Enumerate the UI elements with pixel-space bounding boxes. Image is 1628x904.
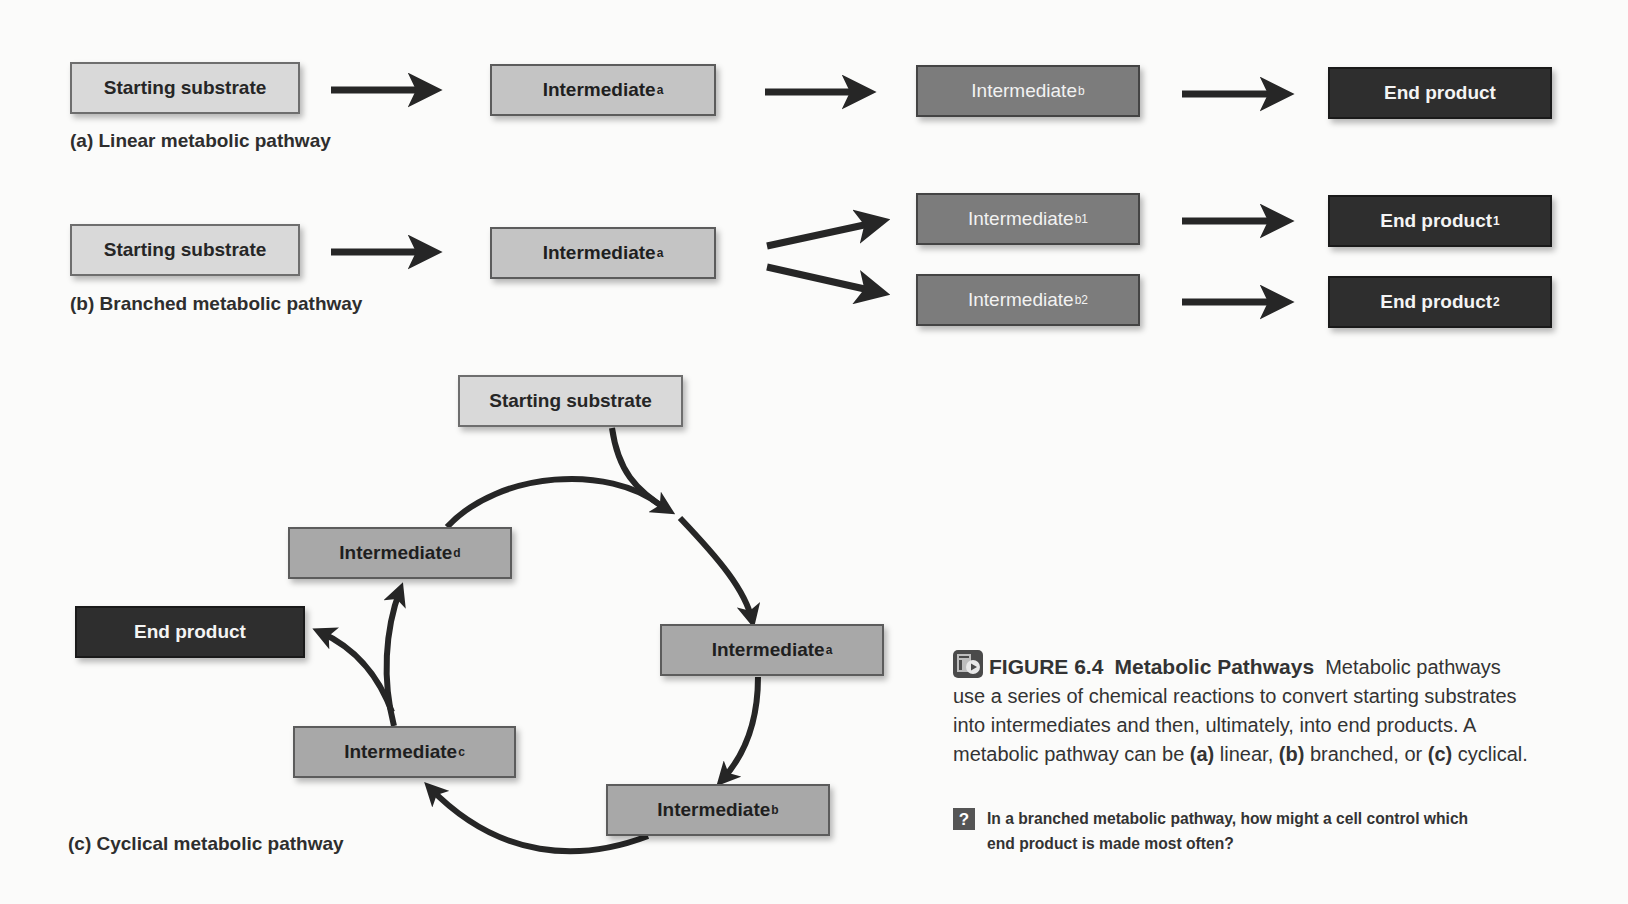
branched-starting-substrate: Starting substrate [70, 224, 300, 276]
linear-pathway-label: (a) Linear metabolic pathway [70, 130, 331, 152]
cyclical-intermediate-b: Intermediateb [606, 784, 830, 836]
node-label: Intermediate [344, 741, 457, 763]
cyclical-intermediate-a: Intermediatea [660, 624, 884, 676]
cyclical-end-product: End product [75, 606, 305, 658]
node-label: Intermediate [657, 799, 770, 821]
node-label: Intermediate [339, 542, 452, 564]
node-subscript: 2 [1493, 295, 1500, 309]
node-label: Intermediate [543, 242, 656, 264]
node-label: Intermediate [712, 639, 825, 661]
node-label: Starting substrate [489, 390, 652, 412]
node-subscript: b [1078, 84, 1085, 98]
node-subscript: b1 [1075, 212, 1088, 226]
node-subscript: b2 [1075, 293, 1088, 307]
figure-title: Metabolic Pathways [1115, 655, 1315, 678]
node-label: Intermediate [543, 79, 656, 101]
cyclical-starting-substrate: Starting substrate [458, 375, 683, 427]
linear-intermediate-a: Intermediatea [490, 64, 716, 116]
critical-thinking-question: ? In a branched metabolic pathway, how m… [953, 806, 1533, 856]
node-label: Starting substrate [104, 77, 267, 99]
node-label: Intermediate [971, 80, 1077, 102]
node-subscript: a [657, 83, 664, 97]
branched-pathway-label: (b) Branched metabolic pathway [70, 293, 362, 315]
caption-marker-c: (c) [1428, 743, 1452, 765]
node-subscript: d [453, 546, 460, 560]
cyclical-intermediate-d: Intermediated [288, 527, 512, 579]
branched-end-product-2: End product2 [1328, 276, 1552, 328]
cyclical-pathway-label: (c) Cyclical metabolic pathway [68, 833, 344, 855]
linear-end-product: End product [1328, 67, 1552, 119]
branched-intermediate-b2: Intermediateb2 [916, 274, 1140, 326]
node-subscript: 1 [1493, 214, 1500, 228]
node-label: Intermediate [968, 208, 1074, 230]
node-label: End product [1380, 291, 1492, 313]
branched-intermediate-a: Intermediatea [490, 227, 716, 279]
node-label: Intermediate [968, 289, 1074, 311]
cyclical-intermediate-c: Intermediatec [293, 726, 516, 778]
figure-caption: FIGURE 6.4 Metabolic Pathways Metabolic … [953, 650, 1533, 769]
linear-intermediate-b: Intermediateb [916, 65, 1140, 117]
figure-number: FIGURE 6.4 [989, 655, 1103, 678]
question-icon: ? [953, 808, 975, 830]
node-subscript: a [826, 643, 833, 657]
node-subscript: c [458, 745, 465, 759]
node-label: End product [1380, 210, 1492, 232]
caption-text-b: branched, or [1310, 743, 1422, 765]
node-label: End product [1384, 82, 1496, 104]
node-label: End product [134, 621, 246, 643]
branched-intermediate-b1: Intermediateb1 [916, 193, 1140, 245]
branched-end-product-1: End product1 [1328, 195, 1552, 247]
node-subscript: a [657, 246, 664, 260]
caption-marker-b: (b) [1279, 743, 1305, 765]
node-subscript: b [771, 803, 778, 817]
caption-text-c: cyclical. [1458, 743, 1528, 765]
question-text: In a branched metabolic pathway, how mig… [987, 806, 1489, 856]
video-icon[interactable] [953, 650, 983, 678]
linear-starting-substrate: Starting substrate [70, 62, 300, 114]
caption-text-a: linear, [1220, 743, 1273, 765]
node-label: Starting substrate [104, 239, 267, 261]
caption-marker-a: (a) [1190, 743, 1214, 765]
